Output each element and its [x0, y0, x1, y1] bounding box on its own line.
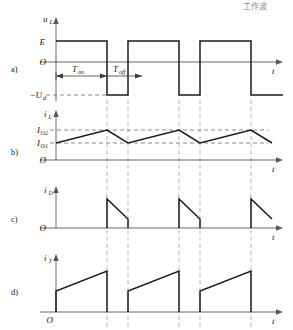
- panel-a-dim-Ton-arrow-right: [100, 74, 107, 79]
- panel-a-waveform-uL: [56, 41, 283, 95]
- panel-a-dim-Ton-subscript: on: [78, 68, 84, 75]
- panel-d-tag: d): [11, 287, 18, 297]
- panel-a-signal-subscript: L: [49, 18, 54, 25]
- panel-d-signal-subscript: T: [49, 257, 53, 264]
- panel-b-waveform-iL: [56, 130, 272, 143]
- panel-d: d) i T t O: [11, 253, 283, 326]
- panel-c-signal-label: i: [44, 185, 47, 195]
- panel-a-level-minus-Ud: −U: [29, 90, 42, 100]
- panel-b-signal-subscript: L: [48, 113, 53, 120]
- panel-d-x-axis-arrow: [276, 309, 283, 314]
- panel-c-signal-subscript: D: [48, 189, 54, 196]
- panel-a-signal-label: u: [43, 14, 48, 24]
- panel-d-axis-label: t: [272, 316, 275, 326]
- panel-d-signal-label: i: [44, 253, 47, 263]
- panel-b-signal-label: i: [44, 109, 47, 119]
- panel-a-axis-label: t: [272, 66, 275, 76]
- panel-a-tag: a): [11, 64, 18, 74]
- panel-a-x-axis-arrow: [276, 59, 283, 64]
- panel-a-level-O: O: [40, 57, 47, 67]
- panel-b-y-axis-arrow: [53, 110, 58, 117]
- panel-b-x-axis-arrow: [276, 157, 283, 162]
- panel-b-level-IO1-subscript: O1: [41, 142, 49, 149]
- panel-c-tag: c): [11, 214, 18, 224]
- panel-a-dim-Toff-arrow-right: [135, 74, 142, 79]
- panel-c-y-axis-arrow: [53, 186, 58, 193]
- corner-title-fragment: 工作波: [243, 1, 267, 11]
- panel-c-axis-label: t: [272, 232, 275, 242]
- panel-a: a) u L t E O −U d T on T off: [11, 14, 283, 101]
- panel-b-tag: b): [11, 147, 18, 157]
- panel-c-x-axis-arrow: [276, 225, 283, 230]
- panel-d-waveform-iT: [56, 271, 251, 312]
- panel-a-dim-Ton-arrow-left: [56, 74, 63, 79]
- panel-b-level-IO2-subscript: O2: [41, 129, 49, 136]
- panel-b-axis-label: t: [272, 164, 275, 174]
- panel-a-y-axis-arrow: [53, 17, 58, 24]
- panel-c-level-O: O: [40, 223, 47, 233]
- waveform-figure: 工作波 a) u L t E O −U d T: [0, 0, 293, 330]
- panel-c-waveform-iD: [107, 199, 272, 228]
- panel-d-level-O: O: [47, 315, 54, 325]
- panel-a-level-E: E: [39, 37, 46, 47]
- panel-c: c) i D t O: [11, 185, 283, 242]
- panel-b: b) i L t I O2 I O1 O: [11, 109, 283, 174]
- panel-a-dim-Toff-subscript: off: [119, 68, 127, 75]
- panel-b-level-O: O: [40, 155, 47, 165]
- panel-d-y-axis-arrow: [53, 254, 58, 261]
